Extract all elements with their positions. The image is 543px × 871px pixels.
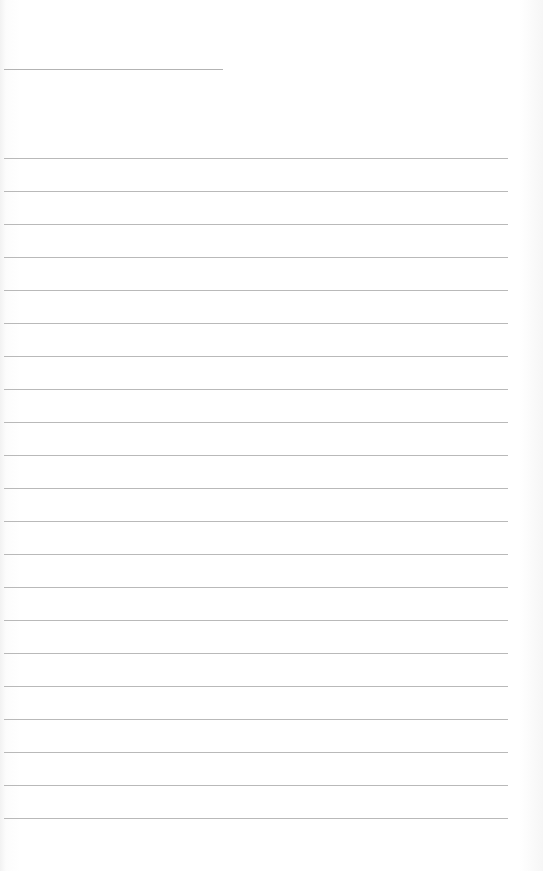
ruled-line (4, 818, 508, 819)
ruled-line (4, 620, 508, 621)
ruled-line (4, 158, 508, 159)
ruled-line (4, 455, 508, 456)
ruled-line (4, 554, 508, 555)
ruled-line (4, 719, 508, 720)
header-name-line (4, 69, 223, 70)
ruled-line (4, 257, 508, 258)
lined-paper-sheet (0, 0, 543, 871)
ruled-line (4, 323, 508, 324)
ruled-line (4, 785, 508, 786)
ruled-line (4, 290, 508, 291)
ruled-line (4, 356, 508, 357)
ruled-line (4, 488, 508, 489)
ruled-line (4, 686, 508, 687)
ruled-line (4, 191, 508, 192)
ruled-line (4, 389, 508, 390)
ruled-line (4, 422, 508, 423)
ruled-line (4, 653, 508, 654)
ruled-line (4, 224, 508, 225)
ruled-line (4, 752, 508, 753)
ruled-line (4, 587, 508, 588)
ruled-line (4, 521, 508, 522)
